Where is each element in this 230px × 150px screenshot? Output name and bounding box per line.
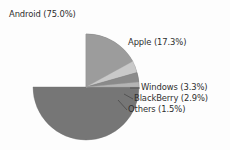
pie-label-blackberry: BlackBerry (2.9%) <box>134 94 208 103</box>
pie-label-android: Android (75.0%) <box>9 10 76 19</box>
pie-label-windows: Windows (3.3%) <box>141 83 207 92</box>
pie-label-apple: Apple (17.3%) <box>128 38 186 47</box>
pie-chart-figure: Android (75.0%) Apple (17.3%) Windows (3… <box>0 0 230 150</box>
pie-chart-graphic <box>0 0 230 150</box>
pie-label-others: Others (1.5%) <box>128 105 185 114</box>
